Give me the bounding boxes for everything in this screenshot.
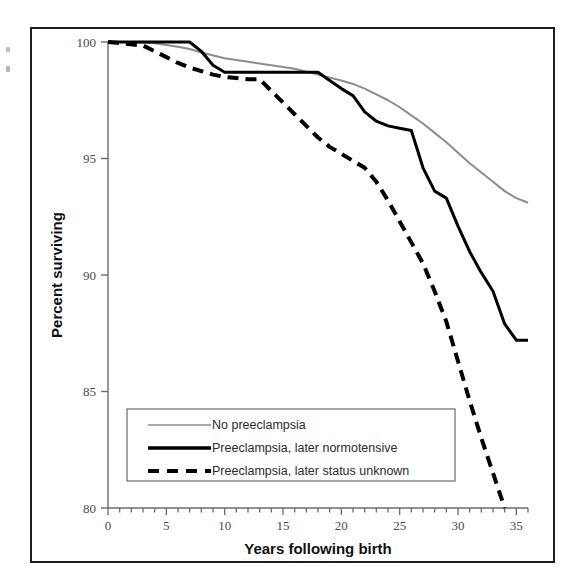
x-tick-label-10: 10	[218, 518, 231, 533]
y-tick-label-95: 95	[83, 151, 96, 166]
legend-item-label-0: No preeclampsia	[212, 418, 306, 432]
x-tick-label-0: 0	[105, 518, 112, 533]
y-tick-label-100: 100	[77, 35, 97, 50]
series-line-0	[108, 42, 528, 203]
x-tick-label-20: 20	[335, 518, 348, 533]
legend-item-label-2: Preeclampsia, later status unknown	[212, 464, 409, 478]
x-tick-label-15: 15	[277, 518, 290, 533]
x-tick-label-30: 30	[452, 518, 465, 533]
y-tick-label-85: 85	[83, 384, 96, 399]
x-tick-label-5: 5	[163, 518, 170, 533]
y-axis-title: Percent surviving	[48, 212, 65, 338]
x-tick-label-35: 35	[510, 518, 523, 533]
y-axis-ticks	[101, 42, 108, 508]
y-tick-label-90: 90	[83, 268, 96, 283]
legend-item-label-1: Preeclampsia, later normotensive	[212, 441, 398, 455]
series-line-1	[108, 42, 528, 340]
y-tick-label-80: 80	[83, 501, 96, 516]
x-axis-title: Years following birth	[244, 540, 392, 557]
x-tick-label-25: 25	[393, 518, 406, 533]
x-axis-ticks	[108, 508, 528, 515]
survival-curve-chart: 100 95 90 85 80 0 5 10 15 20 25 30 35 Ye…	[0, 0, 577, 583]
